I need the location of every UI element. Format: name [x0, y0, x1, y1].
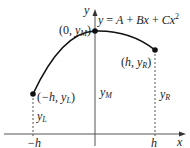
point-right	[152, 47, 158, 53]
ordinate-right-label: yR	[160, 88, 170, 102]
y-axis-arrow-icon	[93, 9, 98, 16]
point-middle-label: (0, yM)	[59, 24, 91, 38]
point-left	[30, 91, 36, 97]
ordinate-left-label: yL	[37, 110, 47, 124]
x-axis-label: x	[177, 136, 182, 148]
tick-minus-h: −h	[27, 137, 41, 148]
tick-h: h	[151, 137, 157, 148]
parabola-diagram: y x y = A + Bx + Cx2 (0, yM) (h, yR) (−h…	[0, 0, 190, 148]
point-middle	[92, 28, 98, 34]
point-left-label: (−h, yL)	[37, 91, 75, 105]
y-axis-label: y	[84, 4, 89, 16]
equation-label: y = A + Bx + Cx2	[98, 13, 179, 26]
point-right-label: (h, yR)	[121, 56, 151, 70]
ordinate-middle-label: yM	[100, 86, 112, 100]
